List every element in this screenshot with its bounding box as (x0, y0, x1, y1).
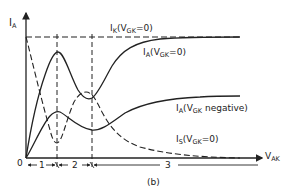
region-2-label: 2 (71, 161, 79, 170)
ianeg-cond-sub: GK (193, 107, 202, 115)
x-axis-label: VAK (265, 152, 280, 163)
ik-cond-sub: GK (127, 27, 136, 35)
ik-sub: K (113, 27, 117, 35)
region-1-label: 1 (38, 161, 46, 170)
figure-caption: (b) (147, 178, 160, 187)
ik-label: IK(VGK=0) (110, 24, 153, 35)
is-cond-rest: =0) (202, 134, 219, 144)
ia-vgk0-label: IA(VGK=0) (143, 48, 186, 59)
origin-label: 0 (17, 159, 23, 168)
y-axis-sub: A (12, 22, 16, 30)
ia0-sub: A (146, 51, 150, 59)
is-cond-sub: GK (192, 138, 201, 146)
region-3-label: 3 (164, 161, 172, 170)
y-axis-label: IA (9, 18, 16, 30)
x-axis-sub: AK (271, 155, 280, 163)
is-sub: S (179, 138, 183, 146)
ianeg-cond-rest: negative) (202, 103, 248, 113)
ia0-cond-sub: GK (160, 51, 169, 59)
is-label: IS(VGK=0) (176, 135, 219, 146)
ia-vgk-negative-label: IA(VGK negative) (176, 104, 248, 115)
ik-cond-rest: =0) (136, 23, 153, 33)
ianeg-sub: A (179, 107, 183, 115)
ia0-cond-rest: =0) (169, 47, 186, 57)
